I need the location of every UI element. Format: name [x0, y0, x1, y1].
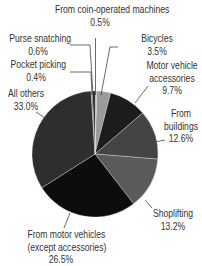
label-shoplifting: Shoplifting 13.2% [153, 207, 194, 232]
label-others: All others 33.0% [7, 87, 45, 112]
label-pocket-value: 0.4% [11, 71, 62, 84]
label-motor-value: 26.5% [27, 253, 94, 266]
label-mva-name1: Motor vehicle [146, 59, 198, 72]
leader-bicycles [101, 47, 118, 95]
label-buildings: From buildings 12.6% [162, 107, 200, 145]
label-others-value: 33.0% [7, 100, 45, 113]
label-motor: From motor vehicles (except accessories)… [27, 228, 94, 266]
label-motor-name2: (except accessories) [27, 241, 94, 254]
label-mva-value: 9.7% [146, 84, 198, 97]
label-bicycles-name: Bicycles [137, 32, 178, 45]
label-buildings-value: 12.6% [162, 132, 200, 145]
label-bicycles-value: 3.5% [137, 45, 178, 58]
label-mva: Motor vehicle accessories 9.7% [146, 59, 198, 97]
pie-slices [32, 91, 158, 217]
label-shoplifting-value: 13.2% [153, 220, 194, 233]
leader-shoplifting [145, 200, 152, 208]
label-mva-name2: accessories [146, 72, 198, 85]
label-pocket-name: Pocket picking [11, 58, 62, 71]
label-buildings-name1: From [162, 107, 200, 120]
leader-motor [64, 213, 70, 228]
label-shoplifting-name: Shoplifting [153, 207, 194, 220]
leader-purse [70, 45, 93, 95]
label-coin: From coin-operated machines 0.5% [55, 3, 145, 28]
leader-others [36, 112, 45, 118]
label-others-name: All others [7, 87, 45, 100]
label-purse-name: Purse snatching [9, 32, 66, 45]
label-purse: Purse snatching 0.6% [9, 32, 66, 57]
label-coin-value: 0.5% [55, 16, 145, 29]
label-motor-name1: From motor vehicles [27, 228, 94, 241]
label-bicycles: Bicycles 3.5% [137, 32, 178, 57]
label-buildings-name2: buildings [162, 120, 200, 133]
label-purse-value: 0.6% [9, 45, 66, 58]
label-coin-name: From coin-operated machines [55, 3, 145, 16]
label-pocket: Pocket picking 0.4% [11, 58, 62, 83]
